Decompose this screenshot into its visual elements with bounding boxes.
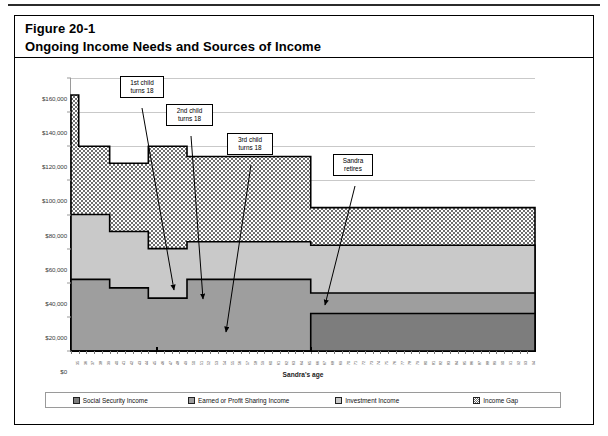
x-axis-label: 40 <box>115 361 119 365</box>
x-axis-tick <box>419 351 420 354</box>
x-axis-tick <box>442 351 443 354</box>
x-axis-tick <box>202 351 203 354</box>
x-axis-tick <box>373 351 374 354</box>
y-axis-tick <box>67 146 71 147</box>
x-axis-label: 55 <box>231 361 235 365</box>
callout-3rd-child-line1: 3rd child <box>231 136 269 144</box>
x-axis-tick <box>280 351 281 354</box>
x-axis-tick <box>86 351 87 354</box>
y-axis-tick <box>67 248 71 249</box>
x-axis-label: 76 <box>393 361 397 365</box>
x-axis-label: 62 <box>285 361 289 365</box>
x-axis-label: 45 <box>153 361 157 365</box>
y-axis-labels: $0$20,000$40,000$60,000$80,000$100,000$1… <box>15 78 67 351</box>
x-axis-label: 77 <box>401 361 405 365</box>
x-axis-tick <box>125 351 126 354</box>
x-axis-label: 66 <box>316 361 320 365</box>
legend-label: Income Gap <box>483 397 518 404</box>
x-axis-label: 54 <box>223 361 227 365</box>
x-axis-label: 91 <box>509 361 513 365</box>
x-axis-label: 61 <box>277 361 281 365</box>
x-axis-label: 89 <box>493 361 497 365</box>
x-axis-tick <box>172 351 173 354</box>
x-axis-label: 60 <box>269 361 273 365</box>
x-axis-tick <box>241 351 242 354</box>
x-axis-label: 94 <box>532 361 536 365</box>
page-top-rule <box>8 4 600 6</box>
x-axis: 3536373839404142434445464748495051525354… <box>71 351 535 367</box>
x-axis-tick <box>434 351 435 354</box>
legend-swatch <box>335 397 342 404</box>
x-axis-label: 88 <box>486 361 490 365</box>
x-axis-label: 74 <box>377 361 381 365</box>
x-axis-label: 59 <box>261 361 265 365</box>
x-axis-tick <box>295 351 296 354</box>
x-axis-tick <box>133 351 134 354</box>
legend-item: Income Gap <box>432 397 561 404</box>
x-axis-tick <box>141 351 142 354</box>
y-axis-label: $60,000 <box>45 265 67 272</box>
x-axis-tick <box>94 351 95 354</box>
x-axis-label: 57 <box>246 361 250 365</box>
x-axis-tick <box>450 351 451 354</box>
callout-sandra-retires-line2: retires <box>337 165 369 173</box>
x-axis-label: 71 <box>354 361 358 365</box>
x-axis-label: 75 <box>385 361 389 365</box>
legend-label: Investment Income <box>345 397 399 404</box>
x-axis-label: 83 <box>447 361 451 365</box>
x-axis-label: 53 <box>215 361 219 365</box>
callout-sandra-retires: Sandra retires <box>333 154 373 176</box>
y-axis-label: $100,000 <box>42 197 67 204</box>
x-axis-label: 63 <box>292 361 296 365</box>
x-axis-tick <box>342 351 343 354</box>
x-axis-label: 84 <box>455 361 459 365</box>
x-axis-tick <box>288 351 289 354</box>
x-axis-tick <box>264 351 265 354</box>
x-axis-label: 78 <box>408 361 412 365</box>
figure-box: Figure 20-1 Ongoing Income Needs and Sou… <box>14 15 594 425</box>
x-axis-label: 42 <box>130 361 134 365</box>
x-axis-tick <box>187 351 188 354</box>
y-axis-label: $40,000 <box>45 299 67 306</box>
x-axis-label: 35 <box>76 361 80 365</box>
y-axis-tick <box>67 180 71 181</box>
callout-2nd-child: 2nd child turns 18 <box>166 104 213 126</box>
x-axis-tick <box>512 351 513 354</box>
plot-area <box>71 78 535 351</box>
legend-swatch <box>473 397 480 404</box>
x-axis-tick <box>117 351 118 354</box>
x-axis-label: 49 <box>184 361 188 365</box>
x-axis-tick <box>272 351 273 354</box>
x-axis-tick <box>388 351 389 354</box>
y-axis-label: $140,000 <box>42 129 67 136</box>
x-axis-label: 52 <box>207 361 211 365</box>
x-axis-tick <box>318 351 319 354</box>
x-axis-tick <box>473 351 474 354</box>
x-axis-tick <box>334 351 335 354</box>
x-axis-label: 48 <box>176 361 180 365</box>
x-axis-label: 43 <box>138 361 142 365</box>
x-axis-label: 65 <box>308 361 312 365</box>
y-axis-label: $80,000 <box>45 231 67 238</box>
callout-1st-child-line1: 1st child <box>124 79 160 87</box>
y-axis-label: $160,000 <box>42 95 67 102</box>
x-axis-label: 87 <box>478 361 482 365</box>
x-axis-label: 50 <box>192 361 196 365</box>
x-axis-tick <box>195 351 196 354</box>
x-axis-tick <box>520 351 521 354</box>
x-axis-tick <box>527 351 528 354</box>
figure-header: Figure 20-1 Ongoing Income Needs and Sou… <box>15 16 593 58</box>
x-axis-tick <box>481 351 482 354</box>
x-axis-label: 56 <box>238 361 242 365</box>
x-axis-label: 39 <box>107 361 111 365</box>
y-axis-label: $20,000 <box>45 333 67 340</box>
x-axis-tick <box>396 351 397 354</box>
x-axis-tick <box>411 351 412 354</box>
callout-3rd-child-line2: turns 18 <box>231 144 269 152</box>
x-axis-label: 93 <box>524 361 528 365</box>
y-axis-tick <box>67 214 71 215</box>
x-axis-label: 85 <box>463 361 467 365</box>
x-axis-tick <box>349 351 350 354</box>
x-axis-tick <box>380 351 381 354</box>
x-axis-label: 38 <box>99 361 103 365</box>
